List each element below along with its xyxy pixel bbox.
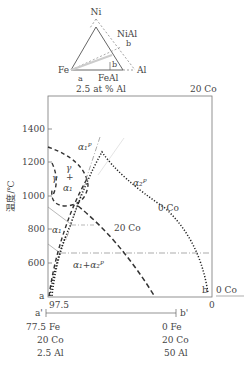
region-alpha1: α₁	[63, 183, 73, 193]
region-alpha2: α₂ᴾ	[133, 178, 147, 188]
vertex-al: Al	[136, 65, 146, 75]
label-b-prime: b'	[180, 308, 188, 318]
ytick-600: 600	[28, 258, 45, 268]
x-left-value: 97.5	[49, 300, 69, 310]
label-20co-curve: 20 Co	[114, 223, 141, 233]
region-plus: +	[66, 172, 74, 182]
label-0co-curve: 0 Co	[158, 203, 179, 213]
label-0co-right: 0 Co	[216, 285, 237, 295]
vertex-fe: Fe	[58, 65, 69, 75]
left-comp-fe: 77.5 Fe	[26, 322, 60, 332]
label-a: a	[78, 74, 83, 83]
ytick-800: 800	[28, 224, 45, 234]
label-20co-top: 20 Co	[190, 84, 217, 94]
region-gamma-left: γ	[52, 173, 58, 183]
label-corner-b: b	[202, 285, 208, 295]
right-comp-co: 20 Co	[162, 335, 189, 345]
left-comp-al: 2.5 Al	[37, 348, 64, 358]
outer-edge-ni	[90, 19, 96, 28]
ytick-1400: 1400	[22, 124, 45, 134]
label-b-inner: b	[112, 60, 117, 69]
region-alpha-mix: α₁+α₂ᴾ	[73, 260, 104, 270]
curve-0co-inner	[50, 236, 66, 296]
region-alpha1-left: α₁	[52, 225, 62, 235]
phase-curves	[48, 137, 210, 297]
composition-axis: a' b' 77.5 Fe 20 Co 2.5 Al 0 Fe 20 Co 50…	[26, 308, 189, 358]
light-diagonal	[98, 138, 124, 175]
x-right-value: 0	[209, 300, 215, 310]
left-comp-co: 20 Co	[37, 335, 64, 345]
y-axis: 1400 1200 1000 800 600 温度/℃	[5, 124, 52, 268]
y-axis-label: 温度/℃	[5, 180, 16, 211]
right-comp-fe: 0 Fe	[162, 322, 182, 332]
label-feal: FeAl	[98, 73, 119, 83]
region-alpha1-prime: α₁ᴾ	[78, 142, 92, 152]
phase-diagram-figure: Ni Fe Al NiAl b b a FeAl 2.5 at % Al 20 …	[0, 0, 246, 365]
ternary-inset: Ni Fe Al NiAl b b a FeAl	[58, 7, 146, 83]
ytick-1200: 1200	[22, 157, 45, 167]
label-nial: NiAl	[117, 29, 137, 39]
label-corner-a: a	[39, 291, 45, 301]
right-comp-al: 50 Al	[164, 348, 188, 358]
label-al-percent: 2.5 at % Al	[76, 84, 126, 94]
region-labels: α₁ᴾ γ + α₁ γ α₂ᴾ α₁ α₁+α₂ᴾ 0 Co 20 Co	[52, 142, 179, 270]
label-a-prime: a'	[35, 308, 43, 318]
vertex-ni: Ni	[91, 7, 102, 17]
shaded-band	[71, 55, 112, 70]
tie-line-2	[48, 207, 72, 225]
label-b-outer: b	[126, 39, 131, 48]
ytick-1000: 1000	[22, 191, 45, 201]
curve-20co-right	[78, 206, 155, 297]
